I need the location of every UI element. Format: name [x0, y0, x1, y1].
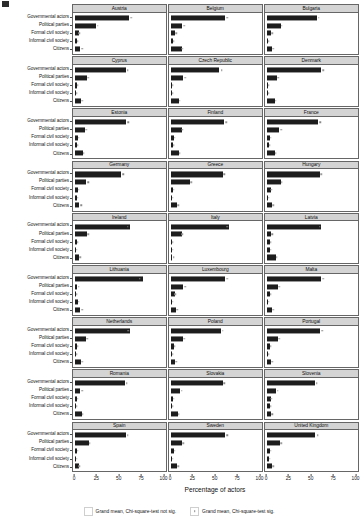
panel-plot-inner	[75, 223, 163, 262]
grand-mean-marker	[225, 121, 227, 123]
grand-mean-marker	[269, 458, 271, 460]
grand-mean-marker	[272, 465, 274, 467]
bar-row	[171, 186, 259, 194]
grand-mean-marker	[183, 442, 185, 444]
legend: Grand mean, Chi-square-test not sig.Gran…	[0, 507, 358, 516]
grand-mean-marker	[128, 330, 130, 332]
y-tick-label: Political parties	[39, 232, 69, 237]
facet-panel-greece: Greece	[168, 161, 263, 213]
bar-row	[75, 45, 163, 53]
grand-mean-marker	[270, 293, 272, 295]
bar-row	[75, 223, 163, 231]
y-tick-label: Informal civil society	[29, 248, 69, 253]
facet-panel-italy: Italy	[168, 213, 263, 265]
grand-mean-marker	[78, 137, 80, 139]
panel-strip: Slovakia	[168, 369, 263, 377]
panel-title: Italy	[211, 215, 220, 220]
grand-mean-marker	[224, 174, 226, 176]
x-tick-label: 25	[190, 476, 195, 481]
axis-gutter	[0, 474, 72, 485]
facet-panel-belgium: Belgium	[168, 4, 263, 56]
bar	[267, 180, 281, 185]
grand-mean-marker	[128, 121, 130, 123]
bar	[267, 232, 271, 237]
bar-row	[171, 447, 259, 455]
bar	[171, 255, 172, 260]
panel-plot-area	[72, 429, 167, 472]
bar-row	[75, 238, 163, 246]
grand-mean-marker	[280, 129, 282, 131]
grand-mean-marker	[81, 309, 83, 311]
bar-row	[171, 306, 259, 314]
bar-row	[267, 387, 355, 395]
bar	[75, 433, 126, 438]
grand-mean-marker	[79, 33, 81, 35]
panel-plot-inner	[75, 66, 163, 105]
grand-mean-marker	[320, 121, 322, 123]
y-tick-label: Informal civil society	[29, 91, 69, 96]
panel-title: Netherlands	[106, 319, 132, 324]
bar	[75, 23, 96, 28]
bar	[75, 98, 81, 103]
panel-plot-area	[264, 12, 359, 55]
bar-row	[267, 126, 355, 134]
panel-strip: Greece	[168, 161, 263, 169]
bar	[75, 203, 79, 208]
bar	[267, 433, 315, 438]
grand-mean-marker	[78, 286, 80, 288]
panel-strip: Sweden	[168, 422, 263, 430]
x-tick-label: 0	[169, 476, 172, 481]
legend-label: Grand mean, Chi-square-test sig.	[202, 509, 274, 514]
grand-mean-marker	[272, 48, 274, 50]
y-tick-label: Citizens	[53, 256, 69, 261]
grand-mean-marker	[173, 398, 175, 400]
panel-plot-inner	[171, 275, 259, 314]
y-tick-label: Political parties	[39, 336, 69, 341]
bar-row	[171, 37, 259, 45]
grand-mean-marker	[183, 25, 185, 27]
bar-row	[267, 22, 355, 30]
grand-mean-marker	[268, 85, 270, 87]
bar	[267, 381, 315, 386]
y-axis-labels: Governmental actorsPolitical partiesForm…	[0, 265, 72, 317]
facet-panel-cyprus: Cyprus	[72, 56, 167, 108]
grand-mean-marker	[226, 435, 228, 437]
bar-row	[267, 335, 355, 343]
grand-mean-marker	[319, 226, 321, 228]
y-tick-label: Informal civil society	[29, 352, 69, 357]
x-axis-title: Percentage of actors	[72, 486, 358, 493]
panel-strip: Austria	[72, 4, 167, 12]
bar-row	[75, 178, 163, 186]
grand-mean-marker	[79, 465, 81, 467]
bar-row	[75, 201, 163, 209]
panel-title: Portugal	[302, 319, 320, 324]
facet-panel-slovakia: Slovakia	[168, 369, 263, 421]
bar-row	[267, 439, 355, 447]
bar-row	[267, 402, 355, 410]
grand-mean-marker	[318, 17, 320, 19]
panel-strip: Italy	[168, 213, 263, 221]
facet-panel-slovenia: Slovenia	[264, 369, 359, 421]
bar	[75, 120, 126, 125]
panel-plot-area	[72, 64, 167, 107]
panel-title: Slovakia	[206, 371, 224, 376]
bar-row	[75, 298, 163, 306]
x-tick-label: 100	[351, 476, 359, 481]
y-tick-label: Governmental actors	[27, 15, 69, 20]
bar	[171, 23, 182, 28]
panel-title: Cyprus	[112, 58, 127, 63]
bar	[171, 284, 183, 289]
bar-row	[171, 230, 259, 238]
panel-row: Governmental actorsPolitical partiesForm…	[0, 369, 358, 421]
bar-row	[75, 118, 163, 126]
x-tick-label: 50	[116, 476, 121, 481]
panel-plot-area	[264, 273, 359, 316]
panel-strip: Denmark	[264, 56, 359, 64]
grand-mean-marker	[127, 69, 129, 71]
panel-title: Belgium	[207, 6, 224, 11]
grand-mean-marker	[179, 100, 181, 102]
bar	[267, 15, 317, 20]
grand-mean-marker	[78, 189, 80, 191]
y-tick-label: Formal civil society	[31, 344, 69, 349]
bar-row	[75, 275, 163, 283]
